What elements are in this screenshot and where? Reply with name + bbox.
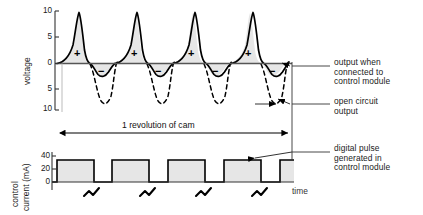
- polarity-minus-4: −: [269, 66, 275, 77]
- polarity-minus-3: −: [212, 66, 218, 77]
- lower-ytick-20: 20: [30, 164, 50, 173]
- figure-root: 10 5 0 5 10 voltage + + + + − − − − 1 re…: [0, 0, 423, 215]
- digital-pulse-fill: [57, 160, 294, 182]
- polarity-plus-4: +: [245, 48, 251, 59]
- polarity-plus-3: +: [188, 48, 194, 59]
- annotation-open-circuit: open circuit output: [334, 97, 420, 116]
- zigzag-marker: [84, 188, 267, 196]
- callout-leaders-lower: [255, 152, 292, 160]
- revolution-span-label: 1 revolution of cam: [122, 120, 195, 130]
- upper-ytick-10-top: 10: [34, 6, 52, 15]
- lower-chart-xlabel: time: [292, 186, 308, 196]
- lower-ytick-40: 40: [30, 151, 50, 160]
- annotation-digital-pulse: digital pulse generated in control modul…: [334, 144, 420, 173]
- polarity-minus-2: −: [155, 66, 161, 77]
- upper-chart-ylabel: voltage: [22, 57, 32, 85]
- upper-ytick-10-bottom: 10: [32, 104, 52, 113]
- lower-chart-ylabel-line2: current (mA): [21, 163, 31, 211]
- upper-ytick-0: 0: [34, 58, 52, 67]
- polarity-plus-1: +: [74, 48, 80, 59]
- open-circuit-curve: [90, 61, 290, 104]
- lower-chart-ylabel-line1: control: [10, 181, 20, 207]
- upper-ytick-5-bottom: 5: [34, 84, 52, 93]
- lower-ytick-0: 0: [30, 177, 50, 186]
- upper-ytick-5-top: 5: [34, 32, 52, 41]
- polarity-plus-2: +: [131, 48, 137, 59]
- annotation-output-connected: output when connected to control module: [334, 58, 420, 87]
- callout-leaders-upper: [255, 62, 330, 152]
- polarity-minus-1: −: [98, 66, 104, 77]
